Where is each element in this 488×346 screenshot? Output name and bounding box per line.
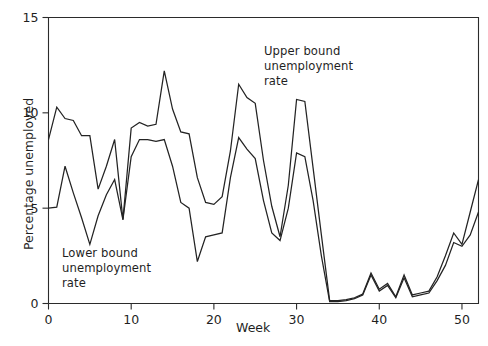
x-tick-label: 30 <box>289 312 305 327</box>
unemployment-line-chart: 05101501020304050 Percentage unemployed … <box>0 0 488 346</box>
x-tick-label: 0 <box>45 312 53 327</box>
upper-bound-annotation: Upper bound unemployment rate <box>264 44 353 90</box>
y-tick-label: 15 <box>23 10 39 25</box>
x-tick-label: 20 <box>206 312 222 327</box>
lower-bound-annotation: Lower bound unemployment rate <box>62 246 151 292</box>
y-tick-label: 0 <box>31 296 39 311</box>
x-axis-label: Week <box>236 320 270 335</box>
x-tick-label: 50 <box>454 312 470 327</box>
y-axis-label: Percentage unemployed <box>21 98 36 250</box>
x-tick-label: 10 <box>123 312 139 327</box>
x-tick-label: 40 <box>371 312 387 327</box>
plot-area: 05101501020304050 <box>0 0 488 346</box>
y-axis-label-wrapper: Percentage unemployed <box>0 0 24 346</box>
